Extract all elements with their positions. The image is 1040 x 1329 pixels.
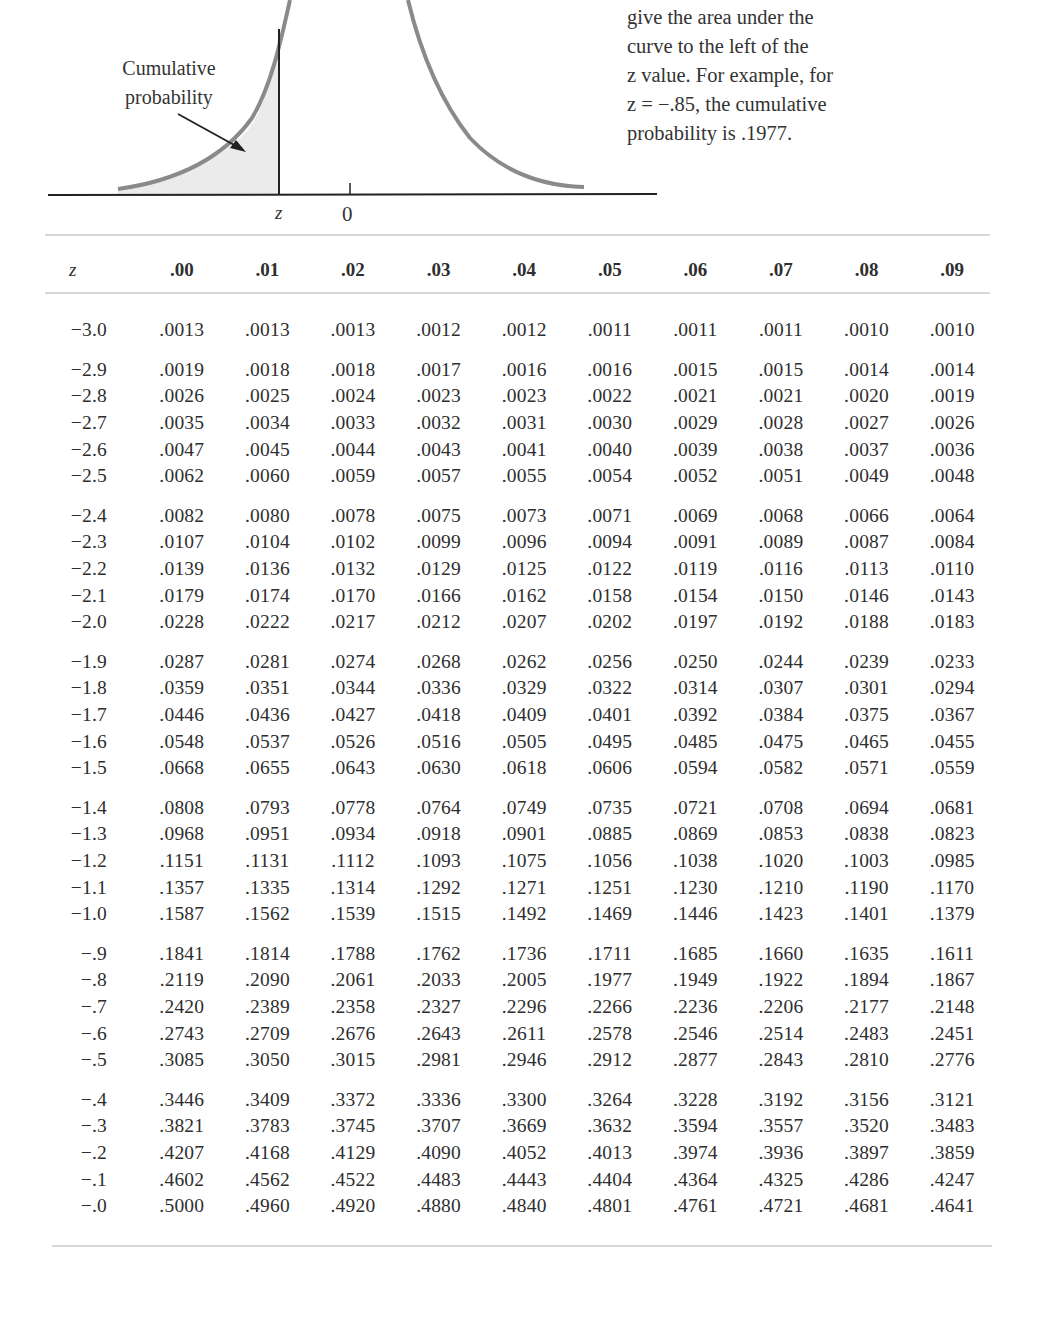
probability-cell: .0062 [139,463,225,490]
probability-cell: .0099 [396,529,482,556]
probability-cell: .0446 [139,702,225,729]
probability-cell: .1685 [653,927,739,967]
probability-cell: .0901 [481,821,567,848]
probability-cell: .0537 [225,728,311,755]
probability-cell: .0162 [481,582,567,609]
z-value-cell: −2.4 [45,490,139,530]
z-value-cell: −1.6 [45,728,139,755]
probability-cell: .0708 [738,782,824,822]
probability-cell: .1357 [139,874,225,901]
probability-cell: .1314 [310,874,396,901]
probability-cell: .0024 [310,383,396,410]
probability-cell: .1401 [824,901,910,928]
probability-cell: .0207 [481,609,567,636]
probability-cell: .1922 [738,967,824,994]
probability-cell: .1867 [909,967,995,994]
probability-cell: .1190 [824,874,910,901]
z-value-cell: −1.9 [45,636,139,676]
probability-cell: .0031 [481,410,567,437]
probability-cell: .0037 [824,436,910,463]
probability-cell: .3446 [139,1073,225,1113]
probability-cell: .0505 [481,728,567,755]
probability-cell: .1251 [567,874,653,901]
probability-cell: .0418 [396,702,482,729]
probability-cell: .0104 [225,529,311,556]
z-value-cell: −2.8 [45,383,139,410]
probability-cell: .0384 [738,702,824,729]
probability-cell: .0618 [481,755,567,782]
probability-cell: .3409 [225,1073,311,1113]
probability-cell: .4562 [225,1166,311,1193]
probability-cell: .0010 [824,288,910,344]
probability-cell: .0029 [653,410,739,437]
probability-cell: .0116 [738,556,824,583]
probability-cell: .0375 [824,702,910,729]
probability-cell: .2358 [310,994,396,1021]
probability-cell: .0322 [567,675,653,702]
probability-cell: .0239 [824,636,910,676]
probability-cell: .0094 [567,529,653,556]
probability-cell: .1492 [481,901,567,928]
probability-cell: .0694 [824,782,910,822]
probability-cell: .1711 [567,927,653,967]
probability-cell: .0025 [225,383,311,410]
probability-cell: .0217 [310,609,396,636]
z-value-cell: −.4 [45,1073,139,1113]
probability-cell: .0516 [396,728,482,755]
probability-cell: .0014 [824,344,910,384]
table-row: −1.3.0968.0951.0934.0918.0901.0885.0869.… [45,821,995,848]
column-header: .08 [824,252,910,288]
probability-cell: .2546 [653,1020,739,1047]
probability-cell: .1788 [310,927,396,967]
probability-cell: .3936 [738,1140,824,1167]
probability-cell: .2389 [225,994,311,1021]
probability-cell: .4207 [139,1140,225,1167]
column-header-z: z [45,252,139,288]
probability-cell: .1210 [738,874,824,901]
probability-cell: .0287 [139,636,225,676]
cumulative-probability-label: Cumulative probability [104,54,234,112]
probability-cell: .0012 [396,288,482,344]
probability-cell: .4013 [567,1140,653,1167]
probability-cell: .0262 [481,636,567,676]
probability-cell: .0314 [653,675,739,702]
table-row: −2.8.0026.0025.0024.0023.0023.0022.0021.… [45,383,995,410]
probability-cell: .0838 [824,821,910,848]
table-row: −2.3.0107.0104.0102.0099.0096.0094.0091.… [45,529,995,556]
probability-cell: .0023 [481,383,567,410]
probability-cell: .0154 [653,582,739,609]
probability-cell: .3015 [310,1047,396,1074]
column-header: .01 [225,252,311,288]
probability-cell: .2981 [396,1047,482,1074]
probability-cell: .0951 [225,821,311,848]
z-value-cell: −1.0 [45,901,139,928]
probability-cell: .1093 [396,848,482,875]
probability-cell: .0228 [139,609,225,636]
column-header: .03 [396,252,482,288]
probability-cell: .4052 [481,1140,567,1167]
probability-cell: .0823 [909,821,995,848]
probability-cell: .1292 [396,874,482,901]
z-value-cell: −2.7 [45,410,139,437]
probability-cell: .0166 [396,582,482,609]
probability-cell: .2451 [909,1020,995,1047]
x-axis [48,194,657,195]
probability-cell: .0136 [225,556,311,583]
probability-cell: .1271 [481,874,567,901]
probability-cell: .2327 [396,994,482,1021]
probability-cell: .0793 [225,782,311,822]
probability-cell: .4801 [567,1193,653,1220]
probability-cell: .0013 [139,288,225,344]
probability-cell: .4761 [653,1193,739,1220]
table-row: −3.0.0013.0013.0013.0012.0012.0011.0011.… [45,288,995,344]
probability-cell: .0054 [567,463,653,490]
probability-cell: .0436 [225,702,311,729]
probability-cell: .0096 [481,529,567,556]
probability-cell: .3483 [909,1113,995,1140]
probability-cell: .2420 [139,994,225,1021]
probability-cell: .0060 [225,463,311,490]
column-header: .00 [139,252,225,288]
probability-cell: .0465 [824,728,910,755]
probability-cell: .2090 [225,967,311,994]
probability-cell: .2578 [567,1020,653,1047]
